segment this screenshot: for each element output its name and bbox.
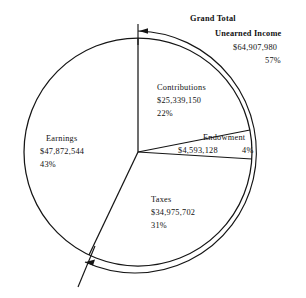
bracket-arrowhead-top bbox=[139, 28, 148, 34]
contributions-percent: 22% bbox=[157, 109, 173, 118]
pie-chart-figure: Grand Total Unearned Income $64,907,980 … bbox=[0, 0, 306, 298]
earnings-value: $47,872,544 bbox=[40, 147, 85, 156]
endowment-value: $4,593,128 bbox=[178, 146, 218, 155]
unearned-income-label: Unearned Income bbox=[215, 29, 281, 38]
earnings-percent: 43% bbox=[40, 160, 56, 169]
earnings-label: Earnings bbox=[46, 134, 78, 143]
bracket-tick-bottom bbox=[78, 246, 95, 287]
endowment-percent: 4% bbox=[242, 146, 254, 155]
pie-divider-taxes-earnings bbox=[89, 152, 138, 255]
pie-chart-canvas: Grand Total Unearned Income $64,907,980 … bbox=[0, 0, 306, 298]
contributions-value: $25,339,150 bbox=[157, 96, 201, 105]
taxes-label: Taxes bbox=[151, 195, 171, 204]
unearned-income-value: $64,907,980 bbox=[233, 43, 277, 52]
unearned-income-percent: 57% bbox=[265, 56, 281, 65]
endowment-label: Endowment bbox=[203, 133, 246, 142]
contributions-label: Contributions bbox=[157, 83, 206, 92]
taxes-percent: 31% bbox=[151, 221, 167, 230]
grand-total-bracket-arc bbox=[85, 31, 256, 273]
grand-total-label: Grand Total bbox=[190, 14, 236, 23]
taxes-value: $34,975,702 bbox=[151, 208, 195, 217]
